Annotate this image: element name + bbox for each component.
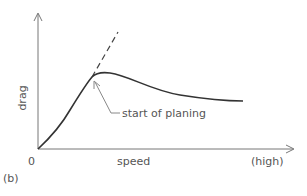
panel-label: (b) <box>3 172 19 185</box>
x-axis-end-label: (high) <box>251 155 284 168</box>
y-axis-label: drag <box>16 85 29 110</box>
drag-speed-diagram: start of planing drag 0 speed (high) (b) <box>0 0 307 196</box>
annotation-label: start of planing <box>122 107 206 120</box>
dashed-extrapolation-line <box>92 32 118 77</box>
origin-label: 0 <box>28 155 35 168</box>
annotation-leader-line <box>95 82 120 113</box>
x-axis-label: speed <box>117 155 150 168</box>
